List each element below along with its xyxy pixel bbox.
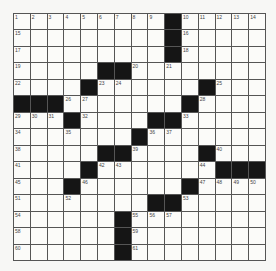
crossword-cell[interactable]: 35: [64, 129, 80, 144]
crossword-cell[interactable]: [249, 245, 265, 260]
crossword-cell[interactable]: [98, 212, 114, 227]
crossword-cell[interactable]: [182, 146, 198, 161]
crossword-cell[interactable]: 29: [14, 113, 30, 128]
crossword-cell[interactable]: [48, 30, 64, 45]
crossword-cell[interactable]: [64, 63, 80, 78]
crossword-cell[interactable]: [48, 47, 64, 62]
crossword-cell[interactable]: [115, 113, 131, 128]
crossword-cell[interactable]: [249, 80, 265, 95]
crossword-cell[interactable]: 23: [98, 80, 114, 95]
crossword-cell[interactable]: 48: [216, 179, 232, 194]
crossword-cell[interactable]: 59: [132, 228, 148, 243]
crossword-cell[interactable]: [165, 162, 181, 177]
crossword-cell[interactable]: 10: [182, 14, 198, 29]
crossword-cell[interactable]: [182, 212, 198, 227]
crossword-cell[interactable]: [48, 179, 64, 194]
crossword-cell[interactable]: [81, 245, 97, 260]
crossword-cell[interactable]: 58: [14, 228, 30, 243]
crossword-cell[interactable]: [148, 228, 164, 243]
crossword-cell[interactable]: [31, 179, 47, 194]
crossword-cell[interactable]: [165, 245, 181, 260]
crossword-cell[interactable]: [148, 245, 164, 260]
crossword-cell[interactable]: 6: [98, 14, 114, 29]
crossword-cell[interactable]: [98, 245, 114, 260]
crossword-cell[interactable]: 39: [132, 146, 148, 161]
crossword-cell[interactable]: [216, 212, 232, 227]
crossword-cell[interactable]: 52: [64, 195, 80, 210]
crossword-cell[interactable]: 5: [81, 14, 97, 29]
crossword-cell[interactable]: [31, 195, 47, 210]
crossword-cell[interactable]: [115, 96, 131, 111]
crossword-cell[interactable]: [132, 96, 148, 111]
crossword-cell[interactable]: [216, 228, 232, 243]
crossword-cell[interactable]: [232, 212, 248, 227]
crossword-cell[interactable]: 24: [115, 80, 131, 95]
crossword-cell[interactable]: 47: [199, 179, 215, 194]
crossword-cell[interactable]: [199, 195, 215, 210]
crossword-cell[interactable]: [199, 212, 215, 227]
crossword-cell[interactable]: [48, 80, 64, 95]
crossword-cell[interactable]: [148, 80, 164, 95]
crossword-cell[interactable]: 54: [14, 212, 30, 227]
crossword-cell[interactable]: 16: [182, 30, 198, 45]
crossword-cell[interactable]: [132, 47, 148, 62]
crossword-cell[interactable]: [132, 80, 148, 95]
crossword-cell[interactable]: [115, 129, 131, 144]
crossword-cell[interactable]: [148, 63, 164, 78]
crossword-cell[interactable]: [64, 47, 80, 62]
crossword-cell[interactable]: [31, 30, 47, 45]
crossword-cell[interactable]: [48, 245, 64, 260]
crossword-cell[interactable]: [48, 146, 64, 161]
crossword-cell[interactable]: [199, 47, 215, 62]
crossword-cell[interactable]: [165, 96, 181, 111]
crossword-cell[interactable]: [98, 195, 114, 210]
crossword-cell[interactable]: [216, 245, 232, 260]
crossword-cell[interactable]: [199, 228, 215, 243]
crossword-cell[interactable]: 31: [48, 113, 64, 128]
crossword-cell[interactable]: [232, 80, 248, 95]
crossword-cell[interactable]: [148, 146, 164, 161]
crossword-cell[interactable]: [81, 30, 97, 45]
crossword-cell[interactable]: [232, 113, 248, 128]
crossword-cell[interactable]: [199, 245, 215, 260]
crossword-cell[interactable]: [148, 162, 164, 177]
crossword-cell[interactable]: [148, 30, 164, 45]
crossword-cell[interactable]: [81, 228, 97, 243]
crossword-cell[interactable]: [148, 47, 164, 62]
crossword-cell[interactable]: 61: [132, 245, 148, 260]
crossword-cell[interactable]: 26: [64, 96, 80, 111]
crossword-cell[interactable]: 45: [14, 179, 30, 194]
crossword-cell[interactable]: 3: [48, 14, 64, 29]
crossword-cell[interactable]: [132, 179, 148, 194]
crossword-cell[interactable]: 19: [14, 63, 30, 78]
crossword-cell[interactable]: [216, 129, 232, 144]
crossword-cell[interactable]: [232, 96, 248, 111]
crossword-cell[interactable]: 14: [249, 14, 265, 29]
crossword-cell[interactable]: 56: [148, 212, 164, 227]
crossword-cell[interactable]: [199, 129, 215, 144]
crossword-cell[interactable]: 17: [14, 47, 30, 62]
crossword-cell[interactable]: [132, 113, 148, 128]
crossword-cell[interactable]: 9: [148, 14, 164, 29]
crossword-cell[interactable]: [31, 80, 47, 95]
crossword-cell[interactable]: 32: [81, 113, 97, 128]
crossword-cell[interactable]: 60: [14, 245, 30, 260]
crossword-cell[interactable]: [249, 30, 265, 45]
crossword-cell[interactable]: [216, 96, 232, 111]
crossword-cell[interactable]: [48, 228, 64, 243]
crossword-cell[interactable]: [216, 195, 232, 210]
crossword-cell[interactable]: 55: [132, 212, 148, 227]
crossword-cell[interactable]: [249, 212, 265, 227]
crossword-cell[interactable]: 43: [115, 162, 131, 177]
crossword-cell[interactable]: 37: [165, 129, 181, 144]
crossword-cell[interactable]: [31, 129, 47, 144]
crossword-cell[interactable]: 1: [14, 14, 30, 29]
crossword-cell[interactable]: 20: [132, 63, 148, 78]
crossword-cell[interactable]: 57: [165, 212, 181, 227]
crossword-cell[interactable]: 2: [31, 14, 47, 29]
crossword-cell[interactable]: [232, 228, 248, 243]
crossword-cell[interactable]: [249, 146, 265, 161]
crossword-cell[interactable]: [132, 30, 148, 45]
crossword-cell[interactable]: 7: [115, 14, 131, 29]
crossword-cell[interactable]: 33: [182, 113, 198, 128]
